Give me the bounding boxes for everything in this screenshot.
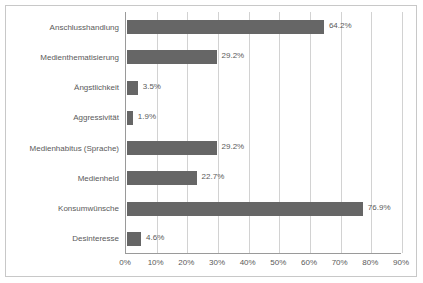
x-tick-label: 70% [332, 258, 348, 267]
bar-row: 76.9% [126, 194, 401, 224]
value-axis-tick-labels: 0%10%20%30%40%50%60%70%80%90% [125, 258, 401, 272]
category-label: Medienheld [12, 163, 119, 193]
bar [127, 81, 138, 95]
bar [127, 232, 141, 246]
x-tick-label: 10% [148, 258, 164, 267]
x-tick-label: 80% [362, 258, 378, 267]
category-label: Ängstlichkeit [12, 73, 119, 103]
bar [127, 171, 197, 185]
plot-area: 64.2%29.2%3.5%1.9%29.2%22.7%76.9%4.6% [125, 12, 401, 254]
category-label: Anschlusshandlung [12, 12, 119, 42]
bar-row: 1.9% [126, 103, 401, 133]
bar [127, 202, 363, 216]
bar-row: 22.7% [126, 163, 401, 193]
bar-value-label: 64.2% [329, 19, 352, 33]
category-axis-labels: AnschlusshandlungMedienthematisierungÄng… [12, 12, 123, 254]
x-tick-label: 50% [270, 258, 286, 267]
bar-value-label: 1.9% [138, 110, 156, 124]
category-label: Konsumwünsche [12, 194, 119, 224]
bar [127, 20, 324, 34]
bar [127, 111, 133, 125]
category-label: Aggressivität [12, 103, 119, 133]
x-tick-label: 90% [393, 258, 409, 267]
category-label: Medienthematisierung [12, 42, 119, 72]
bar-value-label: 29.2% [222, 49, 245, 63]
bar-row: 29.2% [126, 133, 401, 163]
bar [127, 50, 217, 64]
bar-value-label: 76.9% [368, 201, 391, 215]
chart-frame: AnschlusshandlungMedienthematisierungÄng… [5, 5, 417, 277]
bar-series: 64.2%29.2%3.5%1.9%29.2%22.7%76.9%4.6% [126, 12, 401, 253]
bar-value-label: 4.6% [146, 231, 164, 245]
bar-row: 29.2% [126, 42, 401, 72]
bar-row: 3.5% [126, 73, 401, 103]
bar-value-label: 29.2% [222, 140, 245, 154]
category-label: Medienhabitus (Sprache) [12, 133, 119, 163]
bar-value-label: 3.5% [143, 80, 161, 94]
x-tick-label: 60% [301, 258, 317, 267]
x-tick-label: 20% [178, 258, 194, 267]
bar [127, 141, 217, 155]
bar-value-label: 22.7% [202, 170, 225, 184]
x-tick-label: 0% [119, 258, 131, 267]
gridline [402, 12, 403, 253]
category-label: Desinteresse [12, 224, 119, 254]
bar-row: 4.6% [126, 224, 401, 254]
x-tick-label: 40% [240, 258, 256, 267]
x-tick-label: 30% [209, 258, 225, 267]
bar-row: 64.2% [126, 12, 401, 42]
